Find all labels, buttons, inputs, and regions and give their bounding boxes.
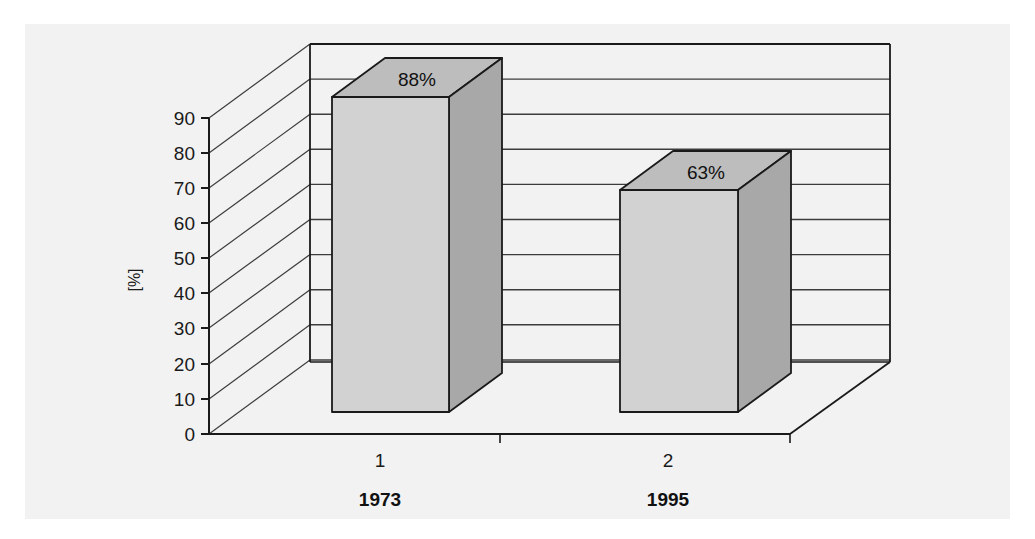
x-index-label-1: 1: [375, 450, 386, 471]
bar-1995[interactable]: 63%: [620, 151, 791, 412]
y-axis-title: [%]: [126, 268, 143, 291]
x-category-label-1995: 1995: [647, 489, 690, 510]
y-tick-label-80: 80: [174, 143, 195, 164]
bar-chart-3d: 0 10 20 30 40 50 60 70 80 90 [%]: [25, 24, 1010, 519]
bar-1973[interactable]: 88%: [332, 58, 502, 412]
y-axis-tick-labels: 0 10 20 30 40 50 60 70 80 90: [174, 108, 195, 445]
bar-1973-front: [332, 97, 449, 412]
y-tick-label-70: 70: [174, 178, 195, 199]
y-tick-label-30: 30: [174, 318, 195, 339]
bar-1973-side: [449, 58, 502, 412]
bar-1973-value-label: 88%: [398, 69, 436, 90]
bar-1995-front: [620, 190, 738, 412]
bar-1995-side: [738, 151, 791, 412]
x-axis-category-labels: 1973 1995: [359, 489, 690, 510]
x-index-label-2: 2: [663, 450, 674, 471]
bar-1995-value-label: 63%: [687, 162, 725, 183]
y-tick-label-50: 50: [174, 248, 195, 269]
x-category-label-1973: 1973: [359, 489, 401, 510]
y-tick-label-10: 10: [174, 389, 195, 410]
x-axis-index-labels: 1 2: [375, 450, 674, 471]
y-tick-label-60: 60: [174, 213, 195, 234]
y-tick-label-90: 90: [174, 108, 195, 129]
y-tick-label-40: 40: [174, 283, 195, 304]
chart-panel: 0 10 20 30 40 50 60 70 80 90 [%]: [25, 24, 1010, 519]
chart-page: 0 10 20 30 40 50 60 70 80 90 [%]: [0, 0, 1035, 539]
y-axis-ticks: [201, 118, 209, 434]
y-tick-label-0: 0: [184, 424, 195, 445]
y-tick-label-20: 20: [174, 354, 195, 375]
